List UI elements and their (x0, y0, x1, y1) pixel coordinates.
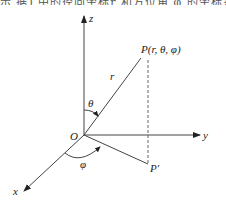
projection-label: P′ (149, 162, 160, 174)
z-axis-label: z (88, 12, 94, 24)
y-axis-label: y (202, 129, 208, 141)
projection-line (84, 135, 148, 164)
origin-label: O (70, 130, 78, 142)
spherical-coordinates-diagram: z y x O P(r, θ, φ) P′ r θ φ (0, 0, 226, 207)
theta-arc (84, 110, 98, 116)
radius-label: r (110, 70, 115, 82)
point-label: P(r, θ, φ) (140, 43, 181, 56)
phi-label: φ (80, 158, 86, 170)
phi-arc (65, 147, 100, 158)
x-axis-label: x (12, 185, 18, 197)
theta-label: θ (88, 97, 94, 109)
x-axis (24, 135, 84, 191)
